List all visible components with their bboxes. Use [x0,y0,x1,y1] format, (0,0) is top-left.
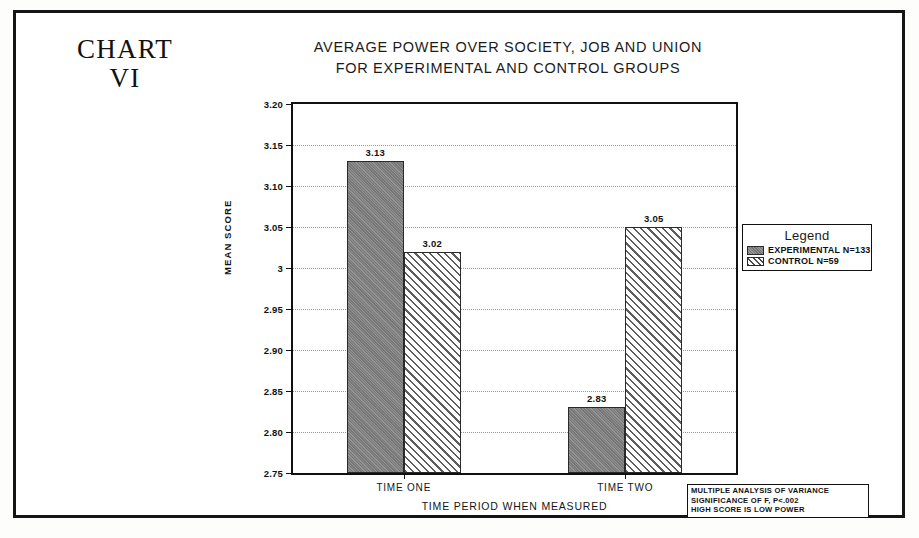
legend-item: CONTROL N=59 [747,256,867,266]
y-axis-tick [286,432,293,433]
y-axis-tick-label: 2.75 [264,468,283,479]
legend-item-label: CONTROL N=59 [768,256,839,266]
y-axis-tick-label: 3.10 [264,181,283,192]
bar-value-label: 3.13 [347,147,404,158]
y-axis-tick-label: 3 [278,263,283,274]
chart-outer-frame: CHART VI AVERAGE POWER OVER SOCIETY, JOB… [13,10,905,518]
chart-title-line2: FOR EXPERIMENTAL AND CONTROL GROUPS [278,58,738,79]
bar-value-label: 2.83 [568,393,625,404]
chart-number-label: CHART VI [40,35,210,93]
y-axis-tick-label: 2.95 [264,304,283,315]
scanned-page-background: CHART VI AVERAGE POWER OVER SOCIETY, JOB… [0,0,919,538]
plot-inner: 3.203.153.103.0532.952.902.852.802.753.1… [293,104,736,473]
footnote-line-1: MULTIPLE ANALYSIS OF VARIANCE [691,486,866,496]
y-axis-tick [286,391,293,392]
y-axis-tick [286,268,293,269]
chart-number-line2: VI [40,64,210,93]
bar-value-label: 3.02 [404,238,461,249]
bar-control-time-one [404,252,461,473]
footnote-box: MULTIPLE ANALYSIS OF VARIANCE SIGNIFICAN… [687,484,869,518]
bar-value-label: 3.05 [625,213,682,224]
x-axis-tick-label: TIME ONE [376,482,431,493]
chart-number-line1: CHART [40,35,210,64]
footnote-line-2: SIGNIFICANCE OF F, P<.002 [691,496,866,506]
x-axis-tick [404,473,405,479]
chart-title-line1: AVERAGE POWER OVER SOCIETY, JOB AND UNIO… [278,37,738,58]
legend-title: Legend [747,228,867,243]
legend-item-label: EXPERIMENTAL N=133 [768,245,871,255]
y-axis-tick [286,227,293,228]
y-axis-tick-label: 2.80 [264,427,283,438]
bar-experimental-time-one [347,161,404,473]
y-axis-tick-label: 3.20 [264,99,283,110]
footnote-line-3: HIGH SCORE IS LOW POWER [691,505,866,515]
y-axis-tick-label: 2.85 [264,386,283,397]
x-axis-tick [625,473,626,479]
y-axis-tick-label: 3.15 [264,140,283,151]
legend-swatch-solid [747,246,764,255]
legend-box: Legend EXPERIMENTAL N=133CONTROL N=59 [742,224,872,271]
legend-rows: EXPERIMENTAL N=133CONTROL N=59 [747,245,867,266]
y-axis-tick [286,473,293,474]
y-axis-tick [286,145,293,146]
plot-area: 3.203.153.103.0532.952.902.852.802.753.1… [291,102,738,475]
y-axis-tick [286,350,293,351]
y-axis-tick [286,186,293,187]
bar-experimental-time-two [568,407,625,473]
x-axis-tick-label: TIME TWO [597,482,653,493]
legend-item: EXPERIMENTAL N=133 [747,245,867,255]
y-axis-tick-label: 2.90 [264,345,283,356]
y-axis-tick [286,104,293,105]
y-axis-tick [286,309,293,310]
legend-swatch-hatch [747,257,764,266]
y-axis-title: MEAN SCORE [222,200,233,275]
y-axis-tick-label: 3.05 [264,222,283,233]
chart-title: AVERAGE POWER OVER SOCIETY, JOB AND UNIO… [278,37,738,78]
gridline [293,145,736,146]
x-axis-title: TIME PERIOD WHEN MEASURED [291,500,738,512]
bar-control-time-two [625,227,682,473]
